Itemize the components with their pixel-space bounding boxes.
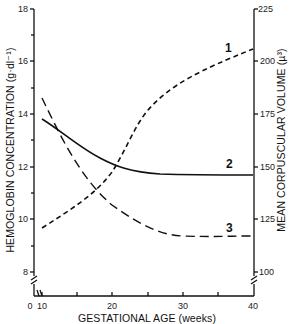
svg-text:12: 12 <box>18 162 28 172</box>
svg-text:150: 150 <box>260 162 275 172</box>
svg-text:175: 175 <box>260 109 275 119</box>
series-2-line <box>42 119 253 175</box>
right-axis <box>251 9 258 296</box>
left-axis <box>30 9 37 296</box>
svg-text:20: 20 <box>107 301 117 311</box>
x-axis <box>34 290 254 296</box>
svg-text:0: 0 <box>27 301 32 311</box>
series-2-label: 2 <box>226 157 233 171</box>
svg-text:10: 10 <box>18 214 28 224</box>
right-tick-labels: 225 200 175 150 125 100 <box>258 4 275 277</box>
svg-text:125: 125 <box>260 214 275 224</box>
svg-text:40: 40 <box>248 301 258 311</box>
svg-text:225: 225 <box>258 4 273 14</box>
svg-text:200: 200 <box>260 56 275 66</box>
series-3-label: 3 <box>226 221 233 235</box>
svg-text:18: 18 <box>18 4 28 14</box>
series-3-line <box>42 98 253 236</box>
svg-text:10: 10 <box>37 301 47 311</box>
left-tick-labels: 18 16 14 12 10 8 <box>18 4 28 277</box>
svg-text:30: 30 <box>178 301 188 311</box>
series-1-line <box>42 49 253 228</box>
svg-text:16: 16 <box>18 56 28 66</box>
chart: 18 16 14 12 10 8 225 200 175 150 125 100… <box>0 0 291 324</box>
y2-axis-label: MEAN CORPUSCULAR VOLUME (µ³) <box>275 48 287 231</box>
svg-text:14: 14 <box>18 109 28 119</box>
x-tick-labels: 0 10 20 30 40 <box>27 301 258 311</box>
svg-text:8: 8 <box>23 267 28 277</box>
svg-text:100: 100 <box>259 267 274 277</box>
y-axis-label: HEMOGLOBIN CONCENTRATION (g·dl⁻¹) <box>4 47 16 252</box>
x-axis-label: GESTATIONAL AGE (weeks) <box>78 312 216 324</box>
series-1-label: 1 <box>225 41 232 55</box>
